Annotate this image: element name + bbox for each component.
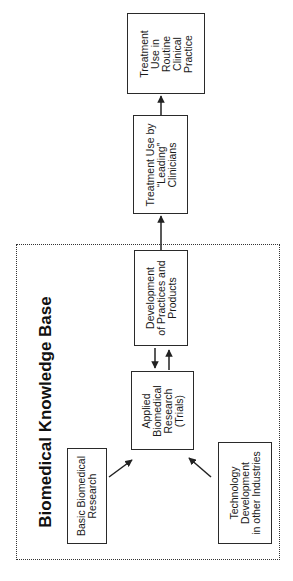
edges-layer [0, 0, 293, 581]
arrow-basic-to-applied [109, 460, 132, 477]
arrow-technology-to-applied [189, 458, 211, 477]
